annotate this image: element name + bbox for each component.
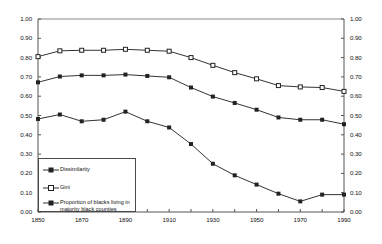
legend-item-proportion: Proportion of blacks living in majority … xyxy=(43,199,134,212)
y-axis-left-tick-label: 1.00 xyxy=(10,15,32,22)
y-axis-right-tick-label: 0.50 xyxy=(350,112,372,119)
series-marker xyxy=(233,101,237,105)
series-marker xyxy=(211,63,215,67)
legend-item-gini: Gini xyxy=(43,184,70,192)
x-axis-tick-label: 1890 xyxy=(112,216,138,223)
y-axis-right-tick-label: 0.10 xyxy=(350,189,372,196)
y-axis-left-tick-label: 0.40 xyxy=(10,131,32,138)
x-axis-tick-label: 1870 xyxy=(69,216,95,223)
legend-label: Dissimilarity xyxy=(60,166,90,173)
series-marker xyxy=(298,199,302,203)
series-marker xyxy=(298,118,302,122)
y-axis-right-tick-label: 0.70 xyxy=(350,73,372,80)
series-marker xyxy=(320,193,324,197)
series-marker xyxy=(102,48,106,52)
series-marker xyxy=(342,89,346,93)
series-marker xyxy=(58,49,62,53)
series-marker xyxy=(320,86,324,90)
legend-item-dissimilarity: Dissimilarity xyxy=(43,166,90,174)
y-axis-left-tick-label: 0.30 xyxy=(10,150,32,157)
series-marker xyxy=(211,162,215,166)
y-axis-right-tick-label: 0.80 xyxy=(350,54,372,61)
y-axis-left-tick-label: 0.70 xyxy=(10,73,32,80)
y-axis-left-tick-label: 0.90 xyxy=(10,34,32,41)
x-axis-tick-label: 1930 xyxy=(200,216,226,223)
y-axis-right-tick-label: 1.00 xyxy=(350,15,372,22)
y-axis-right-tick-label: 0.60 xyxy=(350,92,372,99)
y-axis-left-tick-label: 0.00 xyxy=(10,208,32,215)
series-line xyxy=(38,75,344,125)
series-marker xyxy=(276,192,280,196)
series-marker xyxy=(320,118,324,122)
legend-label: Gini xyxy=(60,184,70,191)
y-axis-right-tick-label: 0.30 xyxy=(350,150,372,157)
series-marker xyxy=(145,119,149,123)
chart-legend: Dissimilarity Gini Proportion of blacks … xyxy=(38,158,136,212)
y-axis-left-tick-label: 0.50 xyxy=(10,112,32,119)
series-marker xyxy=(145,48,149,52)
series-marker xyxy=(102,73,106,77)
series-marker xyxy=(36,117,40,121)
y-axis-right-tick-label: 0.40 xyxy=(350,131,372,138)
y-axis-right-tick-label: 0.00 xyxy=(350,208,372,215)
series-marker xyxy=(145,74,149,78)
series-marker xyxy=(167,125,171,129)
x-axis-tick-label: 1970 xyxy=(287,216,313,223)
y-axis-right-tick-label: 0.90 xyxy=(350,34,372,41)
y-axis-left-tick-label: 0.10 xyxy=(10,189,32,196)
y-axis-left-tick-label: 0.80 xyxy=(10,54,32,61)
y-axis-left-tick-label: 0.20 xyxy=(10,169,32,176)
series-marker xyxy=(58,113,62,117)
series-marker xyxy=(298,85,302,89)
series-marker xyxy=(58,75,62,79)
series-marker xyxy=(189,142,193,146)
x-axis-tick-label: 1910 xyxy=(156,216,182,223)
legend-marker-open-square-icon xyxy=(43,184,59,192)
x-axis-tick-label: 1990 xyxy=(331,216,357,223)
legend-marker-filled-square-icon xyxy=(43,166,59,174)
series-marker xyxy=(80,119,84,123)
series-marker xyxy=(255,108,259,112)
series-marker xyxy=(342,122,346,126)
series-marker xyxy=(36,55,40,59)
series-marker xyxy=(167,75,171,79)
series-marker xyxy=(342,193,346,197)
series-marker xyxy=(276,115,280,119)
legend-marker-filled-square-icon xyxy=(43,199,59,207)
series-marker xyxy=(189,86,193,90)
chart-container: 1.000.900.800.700.600.500.400.300.200.10… xyxy=(0,0,382,244)
series-marker xyxy=(255,183,259,187)
series-marker xyxy=(167,49,171,53)
y-axis-right-tick-label: 0.20 xyxy=(350,169,372,176)
y-axis-left-tick-label: 0.60 xyxy=(10,92,32,99)
series-marker xyxy=(211,95,215,99)
series-marker xyxy=(233,173,237,177)
series-marker xyxy=(276,84,280,88)
series-marker xyxy=(255,77,259,81)
series-marker xyxy=(189,56,193,60)
series-marker xyxy=(80,48,84,52)
series-marker xyxy=(102,118,106,122)
x-axis-tick-label: 1850 xyxy=(25,216,51,223)
series-marker xyxy=(233,71,237,75)
legend-label: Proportion of blacks living in majority … xyxy=(60,199,134,212)
series-marker xyxy=(80,73,84,77)
x-axis-tick-label: 1950 xyxy=(244,216,270,223)
series-marker xyxy=(36,80,40,84)
series-marker xyxy=(123,73,127,77)
series-marker xyxy=(123,47,127,51)
series-marker xyxy=(123,110,127,114)
